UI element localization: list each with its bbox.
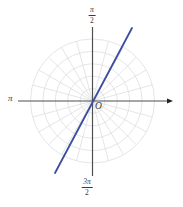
theta-label-pi: π	[8, 94, 13, 103]
theta-label-pi-over-2: π 2	[89, 6, 96, 24]
theta-label-3pi-over-2: 3π 2	[82, 178, 93, 196]
origin-label: O	[95, 102, 102, 112]
fraction-denominator: 2	[90, 16, 94, 25]
fraction-numerator: π	[89, 6, 96, 16]
polar-grid-plot	[0, 0, 183, 207]
fraction-denominator: 2	[85, 188, 89, 197]
fraction-numerator: 3π	[82, 178, 93, 188]
polar-coordinate-figure: π 2 π 3π 2 O	[0, 0, 183, 207]
